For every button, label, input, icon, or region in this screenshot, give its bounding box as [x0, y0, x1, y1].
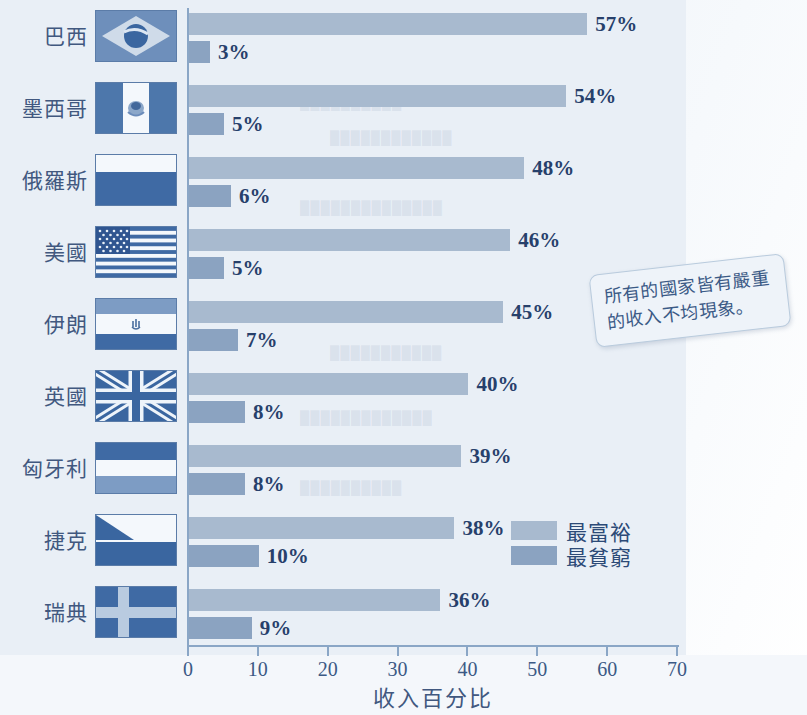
flag-usa-icon — [95, 226, 177, 278]
x-axis-tick-label: 30 — [378, 658, 418, 681]
x-axis-tick-label: 40 — [447, 658, 487, 681]
bar-value-poorest: 6% — [239, 185, 271, 207]
bar-richest — [189, 373, 468, 395]
x-axis-tick — [397, 647, 399, 656]
bar-value-poorest: 9% — [260, 617, 292, 639]
bar-poorest — [189, 401, 245, 423]
x-axis-tick-label: 0 — [168, 658, 208, 681]
flag-hungary-icon — [95, 442, 177, 494]
bar-value-poorest: 5% — [232, 113, 264, 135]
bar-richest — [189, 85, 566, 107]
x-axis-tick-label: 70 — [657, 658, 697, 681]
bar-poorest — [189, 257, 224, 279]
x-axis-tick — [676, 647, 678, 656]
country-label: 巴西 — [8, 20, 88, 50]
country-label: 俄羅斯 — [8, 164, 88, 194]
legend-item-richest: 最富裕 — [511, 518, 632, 543]
bar-value-richest: 48% — [532, 157, 574, 179]
bar-richest — [189, 301, 503, 323]
x-axis-tick-label: 50 — [517, 658, 557, 681]
x-axis-tick — [327, 647, 329, 656]
flag-sweden-icon — [95, 586, 177, 638]
flag-russia-icon — [95, 154, 177, 206]
legend-item-poorest: 最貧窮 — [511, 543, 632, 568]
bar-value-poorest: 8% — [253, 473, 285, 495]
bar-value-richest: 54% — [574, 85, 616, 107]
x-axis-tick-label: 60 — [587, 658, 627, 681]
flag-czech-icon — [95, 514, 177, 566]
bar-value-richest: 57% — [595, 13, 637, 35]
bar-poorest — [189, 113, 224, 135]
bar-poorest — [189, 617, 252, 639]
bar-value-richest: 46% — [518, 229, 560, 251]
bar-poorest — [189, 185, 231, 207]
bar-richest — [189, 517, 454, 539]
x-axis-tick-label: 20 — [308, 658, 348, 681]
bar-richest — [189, 157, 524, 179]
bar-poorest — [189, 41, 210, 63]
flag-iran-icon — [95, 298, 177, 350]
bar-value-poorest: 5% — [232, 257, 264, 279]
bar-poorest — [189, 329, 238, 351]
country-label: 捷克 — [8, 524, 88, 554]
legend-swatch-richest — [511, 521, 557, 540]
x-axis-tick-label: 10 — [238, 658, 278, 681]
bar-value-poorest: 7% — [246, 329, 278, 351]
country-label: 英國 — [8, 380, 88, 410]
country-label: 匈牙利 — [8, 452, 88, 482]
x-axis-tick — [466, 647, 468, 656]
bar-value-poorest: 8% — [253, 401, 285, 423]
x-axis-tick — [257, 647, 259, 656]
country-label: 瑞典 — [8, 596, 88, 626]
legend-label-poorest: 最貧窮 — [566, 541, 632, 571]
bar-richest — [189, 13, 587, 35]
x-axis-tick — [536, 647, 538, 656]
flag-mexico-icon — [95, 82, 177, 134]
chart-legend: 最富裕 最貧窮 — [511, 518, 632, 568]
bar-value-richest: 36% — [448, 589, 490, 611]
bar-richest — [189, 229, 510, 251]
chart-page: ██████████ ████████████ ██████████████ █… — [0, 0, 807, 715]
x-axis-tick — [187, 647, 189, 656]
bar-value-richest: 45% — [511, 301, 553, 323]
legend-swatch-poorest — [511, 546, 557, 565]
country-label: 伊朗 — [8, 308, 88, 338]
bar-poorest — [189, 473, 245, 495]
x-axis-title: 收入百分比 — [187, 680, 679, 712]
bar-value-poorest: 3% — [218, 41, 250, 63]
flag-uk-icon — [95, 370, 177, 422]
bar-richest — [189, 445, 461, 467]
x-axis-tick — [606, 647, 608, 656]
bar-value-richest: 39% — [469, 445, 511, 467]
bar-value-richest: 40% — [476, 373, 518, 395]
country-label: 美國 — [8, 236, 88, 266]
flag-brazil-icon — [95, 10, 177, 62]
bar-poorest — [189, 545, 259, 567]
bar-value-richest: 38% — [462, 517, 504, 539]
bar-value-poorest: 10% — [267, 545, 309, 567]
bar-richest — [189, 589, 440, 611]
country-label: 墨西哥 — [8, 92, 88, 122]
